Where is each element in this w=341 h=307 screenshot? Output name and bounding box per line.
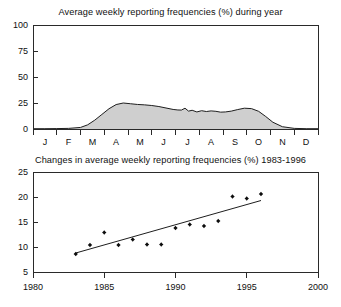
y-tick-marks-annual xyxy=(33,172,38,272)
month-label-may: M xyxy=(136,137,144,147)
data-point-1986 xyxy=(116,243,120,247)
month-label-feb: F xyxy=(66,137,72,147)
y-tick-label-annual-25: 25 xyxy=(18,167,28,177)
year-label-1980: 1980 xyxy=(23,282,43,292)
y-tick-label-annual-15: 15 xyxy=(18,217,28,227)
year-label-2000: 2000 xyxy=(308,282,328,292)
annual-trend-line xyxy=(76,201,261,254)
data-point-1984 xyxy=(88,243,92,247)
month-label-dec: D xyxy=(303,137,310,147)
annual-data-points xyxy=(74,192,264,256)
y-tick-label-seasonal-25: 25 xyxy=(18,98,28,108)
x-tick-marks-annual xyxy=(33,272,318,278)
data-point-1990 xyxy=(173,226,177,230)
x-tick-marks-seasonal xyxy=(33,129,318,135)
annual-scatter-chart-svg: 25 20 15 10 5 xyxy=(0,150,341,307)
chart-title-seasonal: Average weekly reporting frequencies (%)… xyxy=(0,7,341,17)
y-tick-label-seasonal-100: 100 xyxy=(13,20,28,30)
seasonal-area-fill xyxy=(33,103,318,129)
figure-container: Average weekly reporting frequencies (%)… xyxy=(0,0,341,307)
month-label-sep: S xyxy=(232,137,238,147)
y-tick-label-annual-20: 20 xyxy=(18,192,28,202)
month-label-apr: A xyxy=(113,137,119,147)
data-point-1988 xyxy=(145,242,149,246)
data-point-1995 xyxy=(245,196,249,200)
data-point-1994 xyxy=(230,194,234,198)
month-label-aug: A xyxy=(208,137,214,147)
month-label-jan: J xyxy=(43,137,48,147)
month-label-oct: O xyxy=(255,137,262,147)
x-tick-labels-annual: 1980 1985 1990 1995 2000 xyxy=(23,282,328,292)
y-tick-marks-seasonal xyxy=(33,25,38,129)
data-point-1991 xyxy=(188,222,192,226)
plot-frame-annual xyxy=(33,172,318,272)
y-tick-label-annual-10: 10 xyxy=(18,242,28,252)
y-tick-label-seasonal-75: 75 xyxy=(18,46,28,56)
year-label-1995: 1995 xyxy=(237,282,257,292)
y-tick-label-seasonal-0: 0 xyxy=(23,124,28,134)
chart-panel-annual: Changes in average weekly reporting freq… xyxy=(0,150,341,307)
year-label-1990: 1990 xyxy=(165,282,185,292)
chart-title-annual: Changes in average weekly reporting freq… xyxy=(0,155,341,165)
year-label-1985: 1985 xyxy=(94,282,114,292)
data-point-1996 xyxy=(259,192,263,196)
month-label-jul: J xyxy=(185,137,190,147)
chart-panel-seasonal: Average weekly reporting frequencies (%)… xyxy=(0,0,341,152)
month-label-mar: M xyxy=(89,137,97,147)
data-point-1987 xyxy=(131,237,135,241)
data-point-1989 xyxy=(159,242,163,246)
month-label-nov: N xyxy=(279,137,286,147)
seasonal-area-chart-svg: 100 75 50 25 0 xyxy=(0,0,341,152)
data-point-1985 xyxy=(102,230,106,234)
data-point-1993 xyxy=(216,219,220,223)
y-tick-label-seasonal-50: 50 xyxy=(18,72,28,82)
data-point-1992 xyxy=(202,224,206,228)
x-tick-labels-seasonal: J F M A M J J A S O N D xyxy=(43,137,310,147)
month-label-jun: J xyxy=(161,137,166,147)
y-tick-label-annual-5: 5 xyxy=(23,267,28,277)
